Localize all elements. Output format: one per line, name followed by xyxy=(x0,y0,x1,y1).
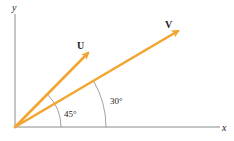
angle-arc-45 xyxy=(48,95,62,128)
angle-label-45: 45° xyxy=(64,109,77,119)
y-axis-label: y xyxy=(11,2,17,13)
vector-u-label: U xyxy=(77,40,84,51)
angle-arc-30 xyxy=(94,82,106,128)
vector-diagram: y x U V 45° 30° xyxy=(0,0,234,141)
angle-label-30: 30° xyxy=(110,96,123,106)
x-axis-label: x xyxy=(221,122,227,133)
vector-v-arrow xyxy=(15,31,178,127)
vector-v-label: V xyxy=(165,19,173,30)
